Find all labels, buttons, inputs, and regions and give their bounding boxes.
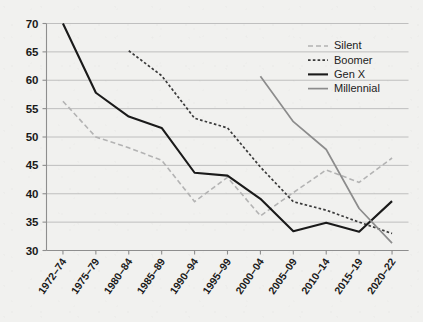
y-tick-label: 35	[26, 216, 39, 228]
y-tick-label: 60	[26, 74, 39, 86]
legend-label-boomer: Boomer	[334, 54, 373, 66]
legend-label-millennial: Millennial	[334, 82, 380, 94]
y-tick-label: 50	[26, 131, 39, 143]
legend-label-silent: Silent	[334, 39, 362, 51]
y-tick-label: 70	[26, 18, 39, 30]
y-tick-label: 65	[26, 46, 39, 58]
legend-label-gen-x: Gen X	[334, 68, 366, 80]
y-tick-label: 40	[26, 188, 39, 200]
chart-canvas: 303540455055606570 1972–741975–791980–84…	[0, 0, 423, 322]
y-tick-label: 55	[26, 103, 39, 115]
y-tick-label: 45	[26, 159, 39, 171]
y-tick-label: 30	[26, 245, 39, 257]
line-chart: 303540455055606570 1972–741975–791980–84…	[0, 0, 423, 322]
